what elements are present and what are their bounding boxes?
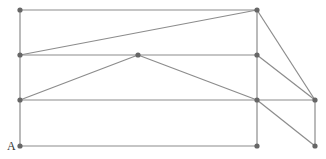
geometry-diagram (0, 0, 326, 159)
point-p6 (17, 97, 22, 102)
line-segment (20, 10, 257, 55)
point-p8 (312, 97, 317, 102)
point-p2 (254, 7, 259, 12)
line-segment (20, 55, 138, 100)
point-p1 (17, 7, 22, 12)
point-p7 (254, 97, 259, 102)
point-p4 (135, 52, 140, 57)
point-label: A (7, 139, 16, 154)
point-p11 (312, 143, 317, 148)
line-segment (138, 55, 257, 100)
line-segment (257, 55, 315, 100)
point-A (17, 143, 22, 148)
line-segment (257, 100, 315, 146)
point-p5 (254, 52, 259, 57)
point-p10 (254, 143, 259, 148)
point-p3 (17, 52, 22, 57)
line-segment (257, 10, 315, 100)
